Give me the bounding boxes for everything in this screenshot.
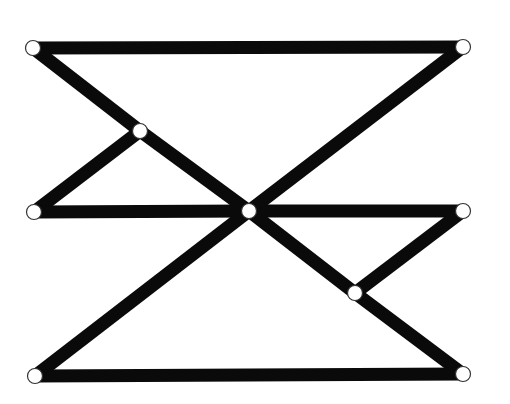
bar-top-left-to-top-right (33, 47, 463, 48)
joint-mid-left (27, 205, 42, 220)
bar-lower-mid-to-bottom-right (355, 293, 463, 374)
bar-lower-mid-to-mid-right (355, 211, 463, 293)
joint-bottom-right (456, 367, 471, 382)
joint-center (242, 204, 257, 219)
bar-top-right-to-center (249, 47, 463, 211)
joint-upper-mid (133, 124, 148, 139)
bar-upper-mid-to-center (140, 131, 249, 211)
bar-top-left-to-upper-mid (33, 48, 140, 131)
bar-bottom-left-to-bottom-right (35, 374, 463, 376)
bar-center-to-bottom-left (35, 211, 249, 376)
bar-mid-left-to-center (34, 211, 249, 212)
joint-lower-mid (348, 286, 363, 301)
bar-center-to-lower-mid (249, 211, 355, 293)
joint-mid-right (456, 204, 471, 219)
bar-upper-mid-to-mid-left (34, 131, 140, 212)
linkage-diagram (0, 0, 510, 404)
joint-top-left (26, 41, 41, 56)
joint-top-right (456, 40, 471, 55)
joint-bottom-left (28, 369, 43, 384)
